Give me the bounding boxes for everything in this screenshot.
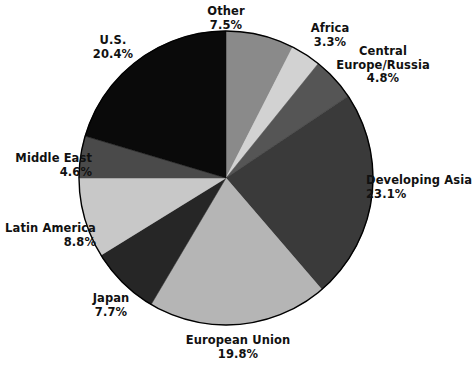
pie-label-other-name: Other bbox=[186, 5, 266, 19]
pie-label-developing-asia: Developing Asia 23.1% bbox=[366, 174, 458, 201]
pie-label-middle-east-name: Middle East bbox=[2, 152, 92, 166]
pie-label-european-union-value: 19.8% bbox=[162, 348, 314, 362]
pie-label-us-value: 20.4% bbox=[78, 48, 148, 62]
pie-label-developing-asia-name: Developing Asia bbox=[366, 174, 458, 188]
pie-label-central-europe-russia: Central Europe/Russia 4.8% bbox=[318, 45, 448, 86]
pie-label-japan: Japan 7.7% bbox=[78, 292, 144, 319]
pie-label-central-europe-russia-name-line2: Europe/Russia bbox=[318, 59, 448, 73]
pie-label-european-union: European Union 19.8% bbox=[162, 334, 314, 361]
pie-label-us: U.S. 20.4% bbox=[78, 34, 148, 61]
pie-label-japan-value: 7.7% bbox=[78, 306, 144, 320]
pie-label-european-union-name: European Union bbox=[162, 334, 314, 348]
pie-label-latin-america: Latin America 8.8% bbox=[2, 222, 96, 249]
pie-label-africa-name: Africa bbox=[296, 22, 364, 36]
pie-label-us-name: U.S. bbox=[78, 34, 148, 48]
pie-label-latin-america-name: Latin America bbox=[2, 222, 96, 236]
pie-label-middle-east: Middle East 4.6% bbox=[2, 152, 92, 179]
pie-label-central-europe-russia-name-line1: Central bbox=[318, 45, 448, 59]
pie-label-middle-east-value: 4.6% bbox=[2, 166, 92, 180]
pie-label-latin-america-value: 8.8% bbox=[2, 236, 96, 250]
pie-label-other: Other 7.5% bbox=[186, 5, 266, 32]
pie-label-japan-name: Japan bbox=[78, 292, 144, 306]
pie-label-other-value: 7.5% bbox=[186, 19, 266, 33]
pie-label-central-europe-russia-value: 4.8% bbox=[318, 72, 448, 86]
pie-label-developing-asia-value: 23.1% bbox=[366, 188, 458, 202]
